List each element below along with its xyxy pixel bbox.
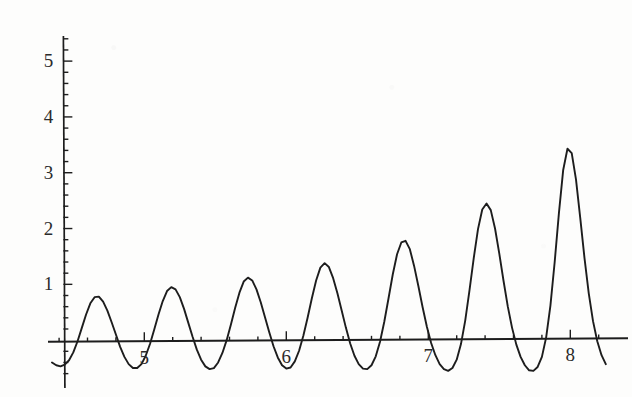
axes-group — [48, 36, 628, 388]
y-tick-label-4: 4 — [29, 107, 53, 126]
x-tick-label-7: 7 — [414, 346, 442, 365]
figure-canvas: 12345 5678 — [0, 0, 632, 397]
y-axis-line — [63, 36, 65, 388]
y-tick-label-1: 1 — [29, 274, 53, 293]
x-tick-label-6: 6 — [272, 347, 300, 366]
y-tick-label-2: 2 — [29, 219, 53, 238]
data-curve-oscillation — [52, 149, 606, 371]
y-tick-label-5: 5 — [29, 51, 53, 70]
x-tick-label-8: 8 — [556, 345, 584, 364]
oscillation-plot — [0, 0, 632, 397]
x-axis-line — [48, 338, 628, 341]
y-tick-label-3: 3 — [29, 163, 53, 182]
x-tick-label-5: 5 — [130, 348, 158, 367]
